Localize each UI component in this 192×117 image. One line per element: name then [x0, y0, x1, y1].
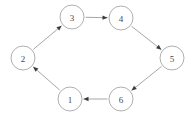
- nodes-layer: 123456: [11, 5, 184, 111]
- node-label: 1: [68, 95, 73, 105]
- diagram-canvas: 123456: [0, 0, 192, 117]
- edge-line: [132, 66, 162, 90]
- graph-node-4[interactable]: 4: [109, 6, 133, 30]
- edge-line: [33, 26, 61, 50]
- node-label: 3: [70, 13, 75, 23]
- graph-node-6[interactable]: 6: [109, 87, 133, 111]
- node-label: 5: [170, 54, 175, 64]
- node-label: 4: [119, 14, 124, 24]
- graph-node-3[interactable]: 3: [60, 5, 84, 29]
- node-label: 6: [119, 95, 124, 105]
- graph-edge: [132, 66, 162, 90]
- edge-line: [33, 67, 60, 90]
- graph-edge: [84, 97, 108, 101]
- graph-edge: [85, 15, 107, 19]
- node-label: 2: [21, 54, 26, 64]
- edges-layer: [33, 15, 161, 101]
- edge-arrowhead: [84, 97, 89, 101]
- graph-edge: [33, 26, 61, 50]
- graph-edge: [33, 67, 60, 90]
- edge-arrowhead: [132, 86, 137, 91]
- edge-line: [132, 26, 162, 49]
- graph-edge: [132, 26, 162, 49]
- edge-arrowhead: [156, 45, 161, 50]
- graph-node-2[interactable]: 2: [11, 46, 35, 70]
- graph-node-5[interactable]: 5: [160, 46, 184, 70]
- directed-cycle-graph: 123456: [0, 0, 192, 117]
- edge-arrowhead: [102, 15, 107, 19]
- graph-node-1[interactable]: 1: [58, 87, 82, 111]
